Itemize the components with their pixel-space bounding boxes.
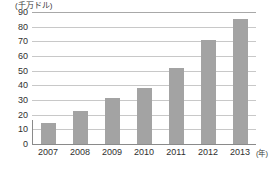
y-tick-label-80: 80	[6, 23, 28, 32]
x-tick-label-2009: 2009	[96, 147, 128, 158]
bar-slot	[32, 12, 64, 144]
y-tick-label-70: 70	[6, 37, 28, 46]
bar-slot	[128, 12, 160, 144]
y-tick-label-90: 90	[6, 8, 28, 17]
bar-2011	[169, 68, 184, 144]
bar-2012	[201, 40, 216, 144]
bar-2009	[105, 98, 120, 144]
x-tick-label-2011: 2011	[160, 147, 192, 158]
y-tick-label-30: 30	[6, 96, 28, 105]
bar-slot	[192, 12, 224, 144]
x-axis-unit-label: (年)	[256, 149, 268, 159]
y-tick-label-20: 20	[6, 111, 28, 120]
gridline-0	[32, 144, 256, 145]
x-tick-label-2007: 2007	[32, 147, 64, 158]
x-tick-label-2010: 2010	[128, 147, 160, 158]
bar-2010	[137, 88, 152, 144]
y-tick-label-10: 10	[6, 125, 28, 134]
x-axis-tick-labels: 2007200820092010201120122013	[32, 147, 256, 163]
bar-slot	[96, 12, 128, 144]
y-tick-label-0: 0	[6, 140, 28, 149]
y-tick-label-40: 40	[6, 81, 28, 90]
bar-slot	[224, 12, 256, 144]
y-tick-label-60: 60	[6, 52, 28, 61]
y-tick-label-50: 50	[6, 67, 28, 76]
bar-2008	[73, 111, 88, 144]
x-tick-label-2013: 2013	[224, 147, 256, 158]
bar-slot	[160, 12, 192, 144]
x-tick-label-2008: 2008	[64, 147, 96, 158]
bar-2013	[233, 19, 248, 144]
x-tick-label-2012: 2012	[192, 147, 224, 158]
bar-slot	[64, 12, 96, 144]
plot-area: 9080706050403020100	[32, 12, 256, 144]
bar-chart: (千万ドル) 9080706050403020100 2007200820092…	[0, 0, 274, 171]
bars-group	[32, 12, 256, 144]
bar-2007	[41, 123, 56, 144]
